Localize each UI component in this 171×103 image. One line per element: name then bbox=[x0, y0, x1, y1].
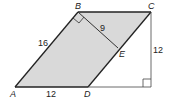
label-ad-length: 12 bbox=[46, 89, 56, 99]
label-point-d: D bbox=[84, 89, 91, 99]
label-ab-length: 16 bbox=[38, 38, 48, 48]
label-be-length: 9 bbox=[100, 23, 105, 33]
label-height-length: 12 bbox=[153, 45, 163, 55]
diagram-canvas: B C E A D 16 9 12 12 bbox=[0, 0, 171, 103]
right-angle-marker-bottom bbox=[143, 79, 151, 87]
parallelogram-abcd bbox=[15, 12, 151, 87]
label-point-c: C bbox=[148, 1, 155, 11]
parallelogram-diagram: B C E A D 16 9 12 12 bbox=[0, 0, 171, 103]
label-point-b: B bbox=[75, 1, 81, 11]
label-point-e: E bbox=[119, 49, 126, 59]
label-point-a: A bbox=[9, 89, 16, 99]
